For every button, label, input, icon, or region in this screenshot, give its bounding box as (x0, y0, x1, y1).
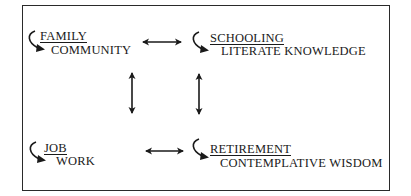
curved-arrow-icon (190, 136, 212, 162)
node-family-top-label: FAMILY (40, 30, 87, 43)
node-job-bottom-label: WORK (56, 155, 95, 167)
node-retirement-top-label: RETIREMENT (210, 143, 291, 156)
curved-arrow-icon (190, 29, 212, 55)
node-family-bottom-label: COMMUNITY (51, 44, 131, 56)
node-retirement-bottom-label: CONTEMPLATIVE WISDOM (220, 157, 382, 169)
node-schooling-bottom-label: LITERATE KNOWLEDGE (221, 45, 366, 57)
